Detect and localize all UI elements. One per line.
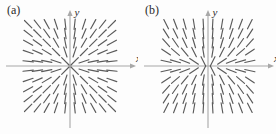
field-segment <box>44 103 49 112</box>
field-segment <box>34 104 40 112</box>
field-segment <box>246 85 253 93</box>
field-segment <box>172 77 180 84</box>
field-segment <box>23 70 33 71</box>
field-segment <box>42 49 51 54</box>
field-segment <box>180 69 190 73</box>
field-segment <box>237 49 245 56</box>
field-segment <box>80 76 87 83</box>
field-segment <box>90 94 96 102</box>
field-segment <box>163 94 169 103</box>
field-segment <box>220 47 225 56</box>
field-segment <box>236 69 246 72</box>
field-segment <box>220 84 223 94</box>
field-segment <box>82 94 86 104</box>
field-segment <box>164 20 169 29</box>
field-segment <box>82 103 85 113</box>
field-segment <box>173 29 178 38</box>
field-segment <box>23 78 33 81</box>
field-segment <box>163 29 169 38</box>
field-segment <box>33 40 41 46</box>
field-segment <box>64 84 66 94</box>
field-segment <box>221 93 223 103</box>
y-axis-label: y <box>212 6 218 18</box>
field-segment <box>161 70 171 72</box>
field-segment <box>53 38 58 47</box>
field-segment <box>89 49 98 54</box>
field-segment <box>52 48 59 55</box>
field-segment <box>99 104 105 112</box>
field-segment <box>172 38 178 47</box>
field-segment <box>180 59 190 63</box>
field-segment <box>74 19 75 29</box>
field-segment <box>226 69 236 73</box>
field-segment <box>248 103 253 112</box>
field-segment <box>172 49 180 56</box>
field-segment <box>212 103 213 113</box>
field-segment <box>163 85 170 93</box>
field-segment <box>183 19 186 29</box>
field-segment <box>108 20 115 27</box>
field-segment <box>193 38 196 48</box>
field-segment <box>80 48 87 55</box>
y-axis-arrowhead <box>67 10 72 16</box>
field-segment <box>99 30 106 37</box>
field-segment <box>107 87 116 92</box>
x-axis-arrowhead <box>268 63 274 68</box>
field-segment <box>44 20 49 29</box>
field-segment <box>172 85 178 94</box>
field-segment <box>81 85 86 94</box>
x-axis-arrowhead <box>130 63 136 68</box>
field-segment <box>193 28 195 38</box>
field-segment <box>82 19 85 29</box>
field-segment <box>44 29 50 37</box>
field-segment <box>51 69 61 72</box>
field-segment <box>64 38 66 48</box>
field-segment <box>193 84 196 94</box>
field-segment <box>108 30 116 36</box>
field-segment <box>173 94 178 103</box>
field-segment <box>228 76 235 84</box>
field-segment <box>203 103 204 113</box>
field-segment <box>193 93 195 103</box>
field-segment <box>107 78 117 81</box>
field-segment <box>33 50 43 54</box>
panel-a-plot: xy <box>0 0 138 134</box>
field-segment <box>54 94 58 104</box>
field-segment <box>182 38 187 47</box>
field-segment <box>236 60 246 63</box>
field-segment <box>99 20 105 28</box>
field-segment <box>64 47 67 57</box>
field-segment <box>108 104 115 111</box>
field-segment <box>98 78 108 82</box>
field-segment <box>33 86 41 92</box>
field-segment <box>218 68 227 74</box>
field-segment <box>34 95 41 102</box>
field-segment <box>53 85 58 94</box>
field-segment <box>62 58 69 65</box>
field-segment <box>239 19 243 29</box>
field-segment <box>89 77 98 82</box>
field-segment <box>88 60 98 62</box>
field-segment <box>71 58 78 65</box>
field-segment <box>228 48 235 56</box>
field-segment <box>248 20 253 29</box>
panel-b-plot: xy <box>138 0 276 134</box>
field-segment <box>230 29 234 39</box>
field-segment <box>210 57 215 66</box>
field-segment <box>170 60 180 63</box>
field-segment <box>34 30 41 37</box>
field-segment <box>107 50 117 53</box>
field-segment <box>221 19 223 29</box>
field-segment <box>238 29 243 38</box>
field-segment <box>43 39 50 46</box>
field-segment <box>183 103 186 113</box>
field-segment <box>65 103 66 113</box>
field-segment <box>230 94 234 104</box>
field-segment <box>51 60 61 63</box>
field-segment <box>24 30 32 36</box>
field-segment <box>79 60 89 63</box>
field-segment <box>23 50 33 53</box>
field-segment <box>90 39 97 46</box>
field-segment <box>90 29 96 37</box>
field-segment <box>52 76 59 83</box>
